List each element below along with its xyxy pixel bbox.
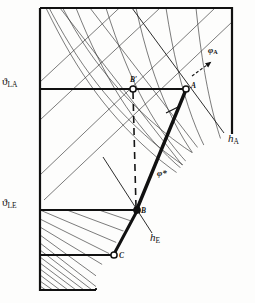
curve-label-h-E: hE [150, 232, 160, 244]
h-E-subscript: E [156, 236, 161, 245]
process-segment-A-B [137, 92, 185, 209]
curve-label-h-A: hA [228, 133, 239, 145]
annotation-phi-A: φA [208, 46, 218, 55]
point-label-C: C [119, 252, 124, 260]
upper-isotherm-lines [40, 0, 232, 200]
marker-A [183, 86, 189, 92]
annotation-phi-star: φ* [157, 169, 167, 178]
process-segment-B-C [114, 211, 137, 254]
chart-frame [40, 8, 232, 290]
enthalpy-line-h-E [103, 157, 152, 233]
h-A-subscript: A [234, 137, 239, 146]
enthalpy-line-h-A [132, 8, 224, 133]
point-label-A: A [191, 82, 196, 90]
point-label-B-prime: B′ [130, 76, 137, 84]
phi-A-subscript: A [213, 49, 217, 55]
theta-LA-subscript: LA [7, 80, 17, 89]
point-label-B: B [141, 207, 146, 215]
theta-LE-subscript: LE [7, 201, 16, 210]
mollier-diagram: ϑLA ϑLE hA hE φA φ* A B′ B C [0, 0, 255, 303]
phi-A-leader-arrow [192, 62, 211, 76]
axis-label-theta-LA: ϑLA [2, 76, 17, 88]
marker-B-prime [130, 86, 136, 92]
marker-B [134, 207, 140, 213]
axis-label-theta-LE: ϑLE [2, 197, 17, 209]
marker-C [111, 252, 117, 258]
fog-isotherm-lines [40, 190, 146, 293]
construction-vertical-Bprime-B [133, 92, 136, 207]
construction-lines [133, 89, 184, 207]
